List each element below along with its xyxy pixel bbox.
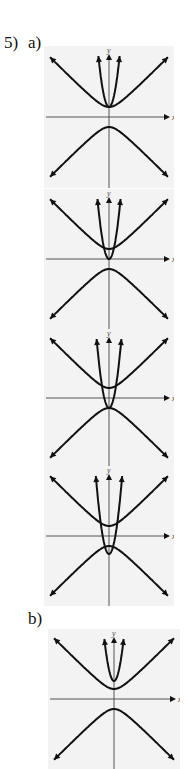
graph-5a-4: xy — [44, 466, 174, 606]
hyperbola-parabola-plot: xy — [44, 466, 174, 606]
x-axis-label: x — [171, 113, 174, 122]
arrow-head-icon — [117, 199, 123, 205]
arrow-head-icon — [164, 395, 170, 401]
graph-5b: xy — [48, 629, 180, 769]
y-axis-label: y — [111, 629, 116, 638]
hyperbola-parabola-plot: xy — [44, 329, 174, 467]
x-axis-label: x — [171, 532, 174, 541]
hyperbola-parabola-plot: xy — [44, 189, 174, 329]
arrow-head-icon — [164, 256, 170, 262]
x-axis-label: x — [171, 394, 174, 403]
arrow-head-icon — [119, 476, 125, 482]
arrow-head-icon — [170, 696, 176, 702]
problem-number: 5) — [4, 34, 18, 51]
y-axis-label: y — [106, 466, 111, 475]
arrow-head-icon — [93, 476, 99, 482]
arrow-head-icon — [164, 533, 170, 539]
x-axis-label: x — [171, 255, 174, 264]
part-a-label: a) — [28, 34, 41, 51]
graph-5a-1: xy — [44, 46, 174, 188]
arrow-head-icon — [164, 114, 170, 120]
graph-5a-2: xy — [44, 189, 174, 329]
arrow-head-icon — [95, 199, 101, 205]
arrow-head-icon — [118, 339, 124, 345]
y-axis-label: y — [106, 329, 111, 338]
arrow-head-icon — [94, 339, 100, 345]
x-axis-label: x — [177, 695, 180, 704]
part-b-label: b) — [28, 610, 42, 627]
y-axis-label: y — [106, 189, 111, 198]
y-axis-label: y — [106, 46, 111, 55]
graph-5a-3: xy — [44, 329, 174, 467]
hyperbola-parabola-plot: xy — [48, 629, 180, 769]
hyperbola-parabola-plot: xy — [44, 46, 174, 188]
